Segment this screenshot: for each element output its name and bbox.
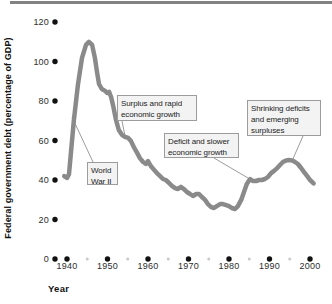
- x-tick-label: 1970: [174, 261, 204, 271]
- annotation-leader-shrinking-deficits: [292, 136, 303, 161]
- x-minor-tick-dot: [288, 258, 291, 261]
- x-tick-label: 1990: [255, 261, 285, 271]
- x-tick-label: 1960: [133, 261, 163, 271]
- x-axis-title: Year: [48, 283, 69, 294]
- annotation-text-line: economic growth: [121, 109, 193, 120]
- y-tick-label: 120: [11, 17, 49, 27]
- annotation-text-line: Shrinking deficits: [251, 103, 317, 114]
- x-tick-label: 1980: [214, 261, 244, 271]
- y-tick-label: 20: [11, 215, 49, 225]
- y-tick-dot: [52, 59, 57, 64]
- annotation-text-line: Surplus and rapid: [121, 98, 193, 109]
- annotation-text-line: surpluses: [251, 125, 317, 136]
- y-tick-label: 0: [11, 254, 49, 264]
- annotation-box-world-war-ii: WorldWar II: [87, 162, 118, 185]
- annotation-box-deficit-slower-growth: Deficit and slowereconomic growth: [164, 133, 239, 158]
- annotation-text-line: economic growth: [168, 147, 235, 158]
- x-minor-tick-dot: [86, 258, 89, 261]
- annotation-text-line: War II: [91, 176, 114, 187]
- x-tick-label: 2000: [295, 261, 325, 271]
- y-tick-dot: [52, 217, 57, 222]
- y-tick-label: 40: [11, 175, 49, 185]
- y-tick-label: 100: [11, 57, 49, 67]
- annotation-leader-deficit-slower-growth: [214, 158, 248, 178]
- y-tick-label: 60: [11, 136, 49, 146]
- y-tick-label: 80: [11, 96, 49, 106]
- y-tick-dot: [52, 138, 57, 143]
- y-tick-dot: [52, 19, 57, 24]
- annotation-box-shrinking-deficits: Shrinking deficitsand emergingsurpluses: [247, 100, 321, 136]
- x-tick-label: 1950: [93, 261, 123, 271]
- chart-figure: Federal government debt (percentage of G…: [0, 0, 332, 304]
- x-minor-tick-dot: [167, 258, 170, 261]
- x-minor-tick-dot: [207, 258, 210, 261]
- y-tick-dot: [52, 98, 57, 103]
- y-tick-dot: [52, 177, 57, 182]
- annotation-text-line: World: [91, 165, 114, 176]
- annotation-text-line: Deficit and slower: [168, 136, 235, 147]
- x-minor-tick-dot: [126, 258, 129, 261]
- x-tick-label: 1940: [52, 261, 82, 271]
- annotation-box-surplus-rapid-growth: Surplus and rapideconomic growth: [117, 95, 197, 121]
- x-minor-tick-dot: [248, 258, 251, 261]
- annotation-text-line: and emerging: [251, 114, 317, 125]
